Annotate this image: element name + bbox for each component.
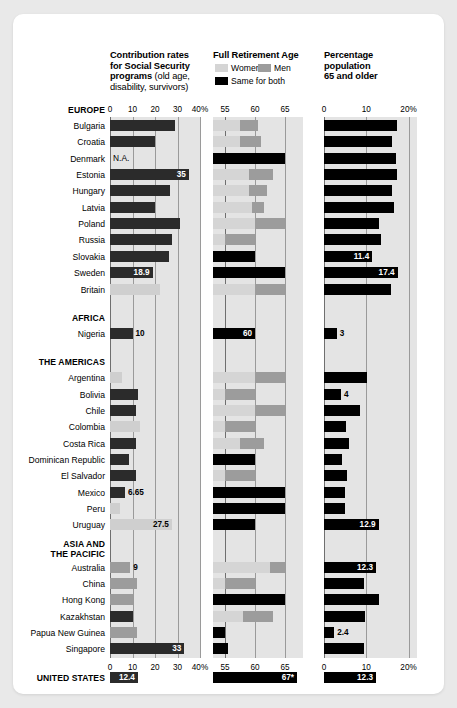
row-label-britain: Britain [13, 285, 105, 295]
row-label-australia: Australia [13, 563, 105, 573]
bar-retirement-women-argentina [213, 372, 255, 383]
bar-pop65-hong-kong [324, 594, 379, 605]
bar-contribution-argentina [110, 372, 122, 383]
bar-pop65-estonia [324, 169, 397, 180]
value-contribution-uruguay: 27.5 [153, 519, 169, 530]
bar-retirement-women-bulgaria [213, 120, 240, 131]
row-label-bolivia: Bolivia [13, 390, 105, 400]
value-pop65-uruguay: 12.9 [360, 519, 376, 530]
bar-pop65-papua-new-guinea [324, 627, 334, 638]
bar-pop65-denmark [324, 153, 396, 164]
tick-top-contrib-10: 10 [121, 105, 145, 114]
value-contribution-mexico: 6.65 [128, 487, 144, 498]
bar-contribution-poland [110, 218, 180, 229]
gridline-retirement-60 [255, 117, 256, 658]
panel-title-contribution: Contribution ratesfor Social Securitypro… [110, 50, 202, 92]
bar-contribution-el-salvador [110, 470, 136, 481]
tick-bottom-retirement-55: 55 [213, 663, 237, 672]
row-label-argentina: Argentina [13, 373, 105, 383]
bar-retirement-men-colombia [225, 421, 255, 432]
bar-retirement-men-australia [270, 562, 285, 573]
bar-retirement-men-kazakhstan [243, 611, 273, 622]
row-label-croatia: Croatia [13, 137, 105, 147]
tick-top-retirement-60: 60 [243, 105, 267, 114]
row-label-colombia: Colombia [13, 422, 105, 432]
row-label-hungary: Hungary [13, 186, 105, 196]
bar-retirement-women-chile [213, 405, 255, 416]
value-pop65-bolivia: 4 [344, 389, 349, 400]
bar-retirement-men-britain [255, 284, 285, 295]
bar-contribution-croatia [110, 136, 155, 147]
bar-retirement-both-dominican-republic [213, 454, 255, 465]
bar-retirement-men-chile [255, 405, 285, 416]
tick-bottom-retirement-65: 65 [273, 663, 297, 672]
bar-contribution-costa-rica [110, 438, 136, 449]
bar-retirement-women-russia [213, 234, 225, 245]
gridline-contrib-10 [133, 117, 134, 658]
bar-pop65-costa-rica [324, 438, 349, 449]
gridline-contrib-30 [178, 117, 179, 658]
bar-contribution-papua-new-guinea [110, 627, 137, 638]
tick-bottom-contrib-40%: 40% [188, 663, 212, 672]
value-contribution-estonia: 35 [177, 169, 186, 180]
bar-retirement-men-china [225, 578, 255, 589]
legend-swatch-women [215, 64, 228, 72]
legend-label-women: Women [231, 63, 260, 73]
value-pop65-united-states: 12.3 [357, 672, 373, 683]
gridline-contrib-40% [200, 117, 201, 658]
tick-top-retirement-65: 65 [273, 105, 297, 114]
bar-contribution-russia [110, 234, 172, 245]
bar-contribution-dominican-republic [110, 454, 129, 465]
bar-contribution-latvia [110, 202, 155, 213]
bar-retirement-both-uruguay [213, 519, 255, 530]
bar-retirement-women-el-salvador [213, 470, 225, 481]
row-label-el-salvador: El Salvador [13, 471, 105, 481]
bar-retirement-women-estonia [213, 169, 249, 180]
tick-bottom-contrib-30: 30 [166, 663, 190, 672]
tick-top-pop65-0: 0 [312, 105, 336, 114]
row-label-costa-rica: Costa Rica [13, 439, 105, 449]
bar-retirement-both-slovakia [213, 251, 255, 262]
bar-contribution-slovakia [110, 251, 169, 262]
value-retirement-united-states: 67* [282, 672, 294, 683]
bar-retirement-women-croatia [213, 136, 240, 147]
bar-pop65-dominican-republic [324, 454, 342, 465]
legend-label-men: Men [274, 63, 291, 73]
row-label-dominican-republic: Dominican Republic [13, 455, 105, 465]
bar-retirement-both-mexico [213, 487, 285, 498]
bar-retirement-men-argentina [255, 372, 285, 383]
value-pop65-nigeria: 3 [340, 328, 345, 339]
row-label-china: China [13, 579, 105, 589]
bar-retirement-women-hungary [213, 185, 249, 196]
gridline-retirement-55 [225, 117, 226, 658]
bar-retirement-men-bolivia [225, 389, 255, 400]
bar-pop65-el-salvador [324, 470, 347, 481]
tick-bottom-pop65-0: 0 [312, 663, 336, 672]
bar-retirement-both-denmark [213, 153, 285, 164]
tick-top-contrib-20: 20 [143, 105, 167, 114]
bar-retirement-men-hungary [249, 185, 267, 196]
bar-retirement-women-kazakhstan [213, 611, 243, 622]
row-label-peru: Peru [13, 504, 105, 514]
row-label-singapore: Singapore [13, 644, 105, 654]
bar-retirement-men-latvia [252, 202, 264, 213]
row-label-poland: Poland [13, 219, 105, 229]
bar-retirement-women-latvia [213, 202, 252, 213]
region-label-europe: EUROPE [13, 105, 105, 115]
bar-pop65-argentina [324, 372, 367, 383]
bar-contribution-bolivia [110, 389, 138, 400]
row-label-uruguay: Uruguay [13, 520, 105, 530]
panel-bg-retirement [213, 117, 303, 658]
bar-contribution-peru [110, 503, 120, 514]
bar-contribution-nigeria [110, 328, 133, 339]
bar-pop65-nigeria [324, 328, 337, 339]
region-label-united-states: UNITED STATES [13, 673, 105, 683]
row-label-latvia: Latvia [13, 203, 105, 213]
value-na-denmark: N.A. [113, 153, 129, 164]
region-label-asia-and-the-pacific: ASIA ANDTHE PACIFIC [13, 539, 105, 560]
bar-pop65-singapore [324, 643, 364, 654]
legend-swatch-men [258, 64, 271, 72]
bar-contribution-china [110, 578, 137, 589]
bar-pop65-kazakhstan [324, 611, 365, 622]
bar-pop65-russia [324, 234, 381, 245]
